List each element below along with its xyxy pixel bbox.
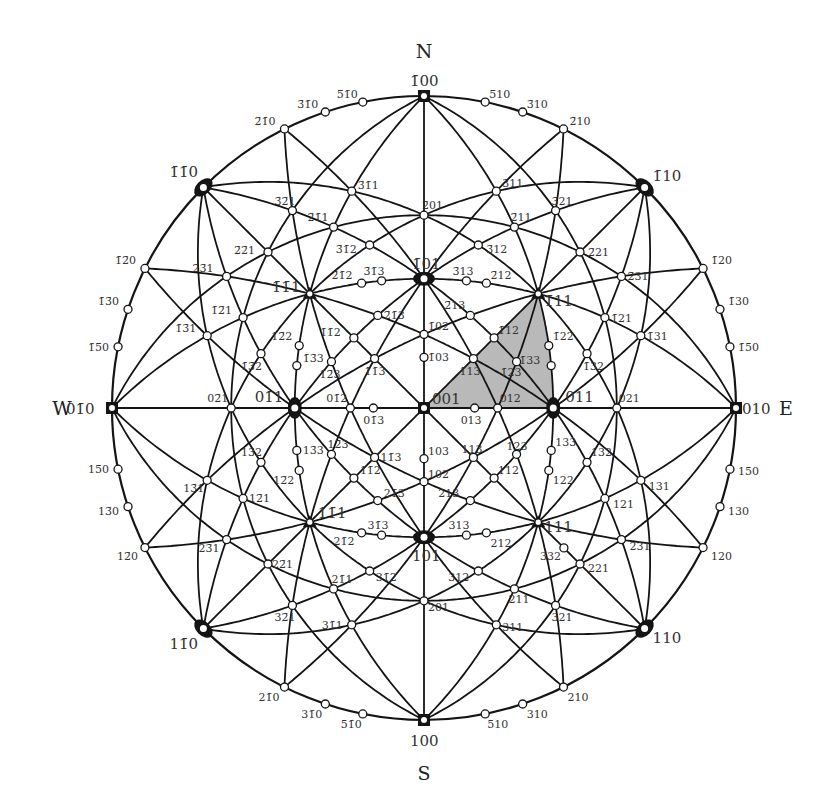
pole-label: 11̄3 bbox=[381, 451, 402, 464]
pole-label: 3̄2̄1 bbox=[274, 195, 295, 208]
pole-icon bbox=[490, 474, 498, 482]
pole-label: 113 bbox=[461, 443, 482, 456]
pole-label: 2̄12 bbox=[490, 269, 511, 282]
pole-label: 121 bbox=[613, 498, 634, 511]
pole-icon bbox=[519, 700, 527, 708]
pole-label: 1̄33 bbox=[519, 354, 540, 367]
pole-label: 12̄2 bbox=[273, 474, 294, 487]
pole-label: 021 bbox=[619, 392, 640, 405]
pole-label: 313 bbox=[448, 519, 469, 532]
pole-label: 21̄3 bbox=[384, 487, 405, 500]
pole-label: 31̄0 bbox=[301, 708, 322, 721]
pole-icon bbox=[583, 458, 591, 466]
pole-label: 1̄01 bbox=[412, 255, 441, 273]
pole-label: 13̄0 bbox=[98, 505, 119, 518]
pole-icon bbox=[288, 207, 296, 215]
pole-label: 1̄22 bbox=[553, 330, 574, 343]
pole-icon bbox=[124, 305, 132, 313]
pole-icon bbox=[560, 544, 568, 552]
pole-icon bbox=[462, 277, 470, 285]
pole-icon bbox=[481, 98, 489, 106]
pole-label: 1̄1̄1 bbox=[272, 278, 301, 296]
pole-label: 1̄31 bbox=[647, 330, 668, 343]
pole-label: 1̄3̄2 bbox=[241, 360, 262, 373]
pole-label: 2̄31 bbox=[627, 270, 648, 283]
pole-icon bbox=[327, 450, 335, 458]
pole-label: 2̄1̄2 bbox=[332, 269, 353, 282]
pole-label: 1̄2̄2 bbox=[271, 330, 292, 343]
pole-label: 1̄12 bbox=[498, 324, 519, 337]
pole-label: 133 bbox=[555, 436, 576, 449]
pole-label: 231 bbox=[629, 540, 650, 553]
pole-label: 132 bbox=[591, 446, 612, 459]
pole-icon bbox=[613, 404, 621, 412]
pole-label: 321 bbox=[552, 611, 573, 624]
pole-icon bbox=[466, 497, 474, 505]
pole-label: 1̄20 bbox=[711, 254, 732, 267]
pole-icon bbox=[560, 125, 568, 133]
pole-label: 122 bbox=[553, 474, 574, 487]
compass-e: E bbox=[779, 397, 793, 419]
pole-icon bbox=[330, 223, 338, 231]
pole-icon bbox=[371, 453, 379, 461]
pole-label: 1̄1̄3 bbox=[365, 365, 386, 378]
pole-label: 2̄1̄1 bbox=[308, 211, 329, 224]
pole-icon bbox=[348, 621, 356, 629]
pole-icon bbox=[257, 350, 265, 358]
pole-icon bbox=[203, 332, 211, 340]
pole-label: 3̄12 bbox=[486, 243, 507, 256]
pole-label: 212 bbox=[490, 537, 511, 550]
pole-label: 13̄1 bbox=[183, 482, 204, 495]
pole-icon bbox=[124, 503, 132, 511]
pole-label: 2̄13 bbox=[444, 299, 465, 312]
pole-icon bbox=[471, 404, 479, 412]
pole-label: 31̄3 bbox=[368, 519, 389, 532]
pole-label: 1̄1̄0 bbox=[169, 163, 198, 181]
pole-label: 311 bbox=[502, 621, 523, 634]
pole-label: 310 bbox=[527, 708, 548, 721]
pole-icon bbox=[358, 529, 366, 537]
pole-icon bbox=[223, 272, 231, 280]
pole-label: 5̄1̄0 bbox=[337, 88, 358, 101]
pole-icon bbox=[295, 342, 303, 350]
pole-label: 1̄13 bbox=[459, 365, 480, 378]
pole-label: 1̄23 bbox=[501, 366, 522, 379]
pole-icon bbox=[601, 494, 609, 502]
pole-icon bbox=[726, 343, 734, 351]
pole-label: 1̄02 bbox=[428, 320, 449, 333]
pole-icon bbox=[482, 529, 490, 537]
pole-label: 013 bbox=[461, 414, 482, 427]
pole-label: 3̄13 bbox=[452, 265, 473, 278]
pole-icon bbox=[474, 567, 482, 575]
pole-label: 101 bbox=[412, 547, 441, 565]
pole-icon bbox=[545, 342, 553, 350]
pole-icon bbox=[637, 476, 645, 484]
pole-label: 1̄3̄1 bbox=[175, 322, 196, 335]
pole-label: 110 bbox=[653, 629, 682, 647]
pole-label: 2̄11 bbox=[510, 211, 531, 224]
pole-label: 123 bbox=[507, 440, 528, 453]
pole-label: 12̄0 bbox=[117, 550, 138, 563]
pole-icon bbox=[716, 305, 724, 313]
pole-icon bbox=[264, 560, 272, 568]
pole-icon bbox=[462, 531, 470, 539]
pole-label: 210 bbox=[568, 691, 589, 704]
pole-icon bbox=[420, 478, 428, 486]
pole-label: 22̄1 bbox=[272, 558, 293, 571]
pole-label: 131 bbox=[649, 480, 670, 493]
pole-label: 21̄1 bbox=[332, 573, 353, 586]
pole-label: 3̄1̄1 bbox=[358, 179, 379, 192]
pole-label: 3̄1̄0 bbox=[297, 98, 318, 111]
pole-icon bbox=[466, 311, 474, 319]
pole-label: 2̄3̄1 bbox=[193, 262, 214, 275]
pole-label: 13̄3 bbox=[303, 444, 324, 457]
pole-label: 2̄1̄3 bbox=[384, 309, 405, 322]
pole-icon bbox=[420, 455, 428, 463]
pole-label: 02̄1 bbox=[207, 392, 228, 405]
pole-icon bbox=[637, 332, 645, 340]
pole-label: 211 bbox=[508, 593, 529, 606]
pole-icon bbox=[420, 597, 428, 605]
pole-label: 1̄03 bbox=[428, 351, 449, 364]
pole-icon bbox=[510, 223, 518, 231]
pole-label: 3̄1̄2 bbox=[336, 243, 357, 256]
